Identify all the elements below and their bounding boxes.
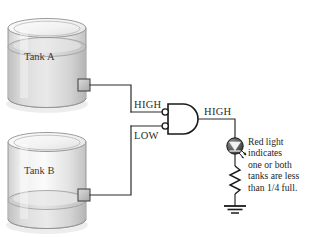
caption-line-3: one or both xyxy=(248,159,322,170)
tank-a-sensor[interactable] xyxy=(78,79,90,91)
led-caption: Red light indicates one or both tanks ar… xyxy=(248,136,322,193)
caption-line-1: Red light xyxy=(248,136,322,147)
tank-a-graphic xyxy=(6,19,88,114)
signal-label-input-b: LOW xyxy=(134,131,159,142)
tank-b-graphic xyxy=(6,133,88,235)
led-symbol xyxy=(227,138,246,166)
input-inverter-bubble-bottom xyxy=(162,123,168,129)
signal-label-input-a: HIGH xyxy=(134,100,161,111)
caption-line-2: indicates xyxy=(248,147,322,158)
caption-line-5: than 1/4 full. xyxy=(248,182,322,193)
wire-gate-to-led xyxy=(198,119,235,138)
tank-b-sensor[interactable] xyxy=(78,189,90,201)
resistor-symbol xyxy=(230,166,240,206)
tank-logic-diagram: Tank A Tank B HIGH LOW HIGH Red light in… xyxy=(0,0,322,238)
negative-and-gate[interactable] xyxy=(162,104,198,134)
diagram-canvas xyxy=(0,0,322,238)
input-inverter-bubble-top xyxy=(162,109,168,115)
caption-line-4: tanks are less xyxy=(248,170,322,181)
tank-b-label: Tank B xyxy=(24,166,54,177)
signal-label-output: HIGH xyxy=(204,107,231,118)
tank-a-label: Tank A xyxy=(24,52,54,63)
ground-symbol xyxy=(224,206,246,213)
